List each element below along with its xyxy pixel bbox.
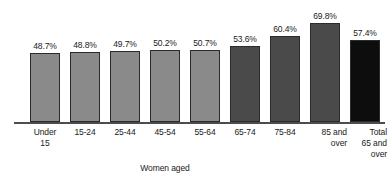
- bar-5: 50.7%: [190, 8, 220, 122]
- bar-value-label: 48.7%: [33, 41, 57, 51]
- x-tick-label-3: 25-44: [103, 127, 147, 138]
- bar-value-label: 69.8%: [313, 11, 337, 21]
- bar-rect: [270, 36, 300, 122]
- bar-value-label: 50.7%: [193, 38, 217, 48]
- bar-value-label: 57.4%: [353, 28, 377, 38]
- bar-3: 49.7%: [110, 8, 140, 122]
- x-tick-label-9: Total 65 and over: [343, 127, 387, 160]
- x-axis-line: [14, 122, 385, 124]
- bar-1: 48.7%: [30, 8, 60, 122]
- bar-rect: [110, 51, 140, 122]
- bar-rect: [350, 40, 380, 122]
- bar-4: 50.2%: [150, 8, 180, 122]
- bar-rect: [150, 50, 180, 122]
- bar-8: 69.8%: [310, 8, 340, 122]
- x-tick-label-4: 45-54: [143, 127, 187, 138]
- bar-value-label: 50.2%: [153, 38, 177, 48]
- plot-area: 48.7%48.8%49.7%50.2%50.7%53.6%60.4%69.8%…: [14, 8, 385, 122]
- bar-9: 57.4%: [350, 8, 380, 122]
- bar-value-label: 60.4%: [273, 24, 297, 34]
- x-tick-label-8: 85 and over: [303, 127, 347, 149]
- bar-rect: [310, 23, 340, 122]
- bar-6: 53.6%: [230, 8, 260, 122]
- x-tick-label-6: 65-74: [223, 127, 267, 138]
- x-tick-label-2: 15-24: [63, 127, 107, 138]
- bar-rect: [230, 46, 260, 122]
- x-tick-label-5: 55-64: [183, 127, 227, 138]
- bar-7: 60.4%: [270, 8, 300, 122]
- bar-value-label: 53.6%: [233, 34, 257, 44]
- bar-value-label: 49.7%: [113, 39, 137, 49]
- bar-2: 48.8%: [70, 8, 100, 122]
- bar-rect: [190, 50, 220, 122]
- x-tick-label-1: Under 15: [23, 127, 67, 149]
- x-axis-title: Women aged: [0, 163, 330, 174]
- x-tick-label-7: 75-84: [263, 127, 307, 138]
- bar-rect: [30, 53, 60, 122]
- bar-value-label: 48.8%: [73, 40, 97, 50]
- bar-chart: 48.7%48.8%49.7%50.2%50.7%53.6%60.4%69.8%…: [0, 0, 392, 188]
- bar-rect: [70, 52, 100, 122]
